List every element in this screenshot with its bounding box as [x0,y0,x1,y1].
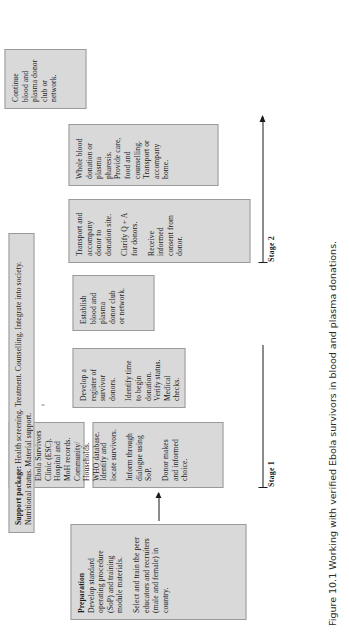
donation-line-1: Whole blood donation or plasma pharesis.… [74,131,170,179]
establish-club-box: Establish blood and plasma donor club or… [72,275,154,331]
transport-line-2: Clarify Q + A for donors. [119,206,138,256]
print-speck [41,404,44,406]
identify-line-1: Identify and locate survivors. [98,429,117,481]
preparation-title: Preparation [76,573,85,613]
rotated-page-canvas: Preparation Develop standard operating p… [0,0,349,634]
support-package-label: Support package: [13,466,22,525]
figure-caption: Figure 10.1 Working with verified Ebola … [326,241,337,626]
identify-locate-box: Identify and locate survivors. Inform th… [92,422,223,488]
continue-club-line-1: Continue blood and plasma donor club or … [10,56,58,102]
register-line-1: Develop a register of survivor donors. [78,355,116,401]
preparation-box: Preparation Develop standard operating p… [70,524,246,620]
register-line-2: Identify time to begin donation. Verify … [123,355,181,401]
establish-club-line-1: Establish blood and plasma donor club or… [78,282,126,324]
transport-line-3: Receive informed consent from donor. [146,206,184,256]
donation-box: Whole blood donation or plasma pharesis.… [68,124,218,186]
flowchart-figure: Preparation Develop standard operating p… [0,0,349,634]
arrow-preparation-to-identify [158,493,159,521]
stage-1-label: Stage 1 [266,461,275,487]
stage-2-label: Stage 2 [266,236,275,262]
preparation-paragraph-2: Select and train the peer educators and … [131,531,169,613]
register-box: Develop a register of survivor donors. I… [72,348,185,408]
preparation-paragraph-1: Develop standard operating procedure (So… [86,550,124,613]
identify-line-2: Inform through dialogue using SoP. [124,429,153,481]
transport-line-1: Transport and accompany donor to donatio… [74,206,112,256]
identify-line-3: Donor makes and informed choice. [160,429,189,481]
stage-1-rule [262,345,263,488]
stage-2-rule [262,117,263,263]
support-package-banner: Support package: Health screening. Treat… [8,233,34,533]
transport-consent-box: Transport and accompany donor to donatio… [68,199,250,263]
continue-club-box: Continue blood and plasma donor club or … [4,49,86,109]
